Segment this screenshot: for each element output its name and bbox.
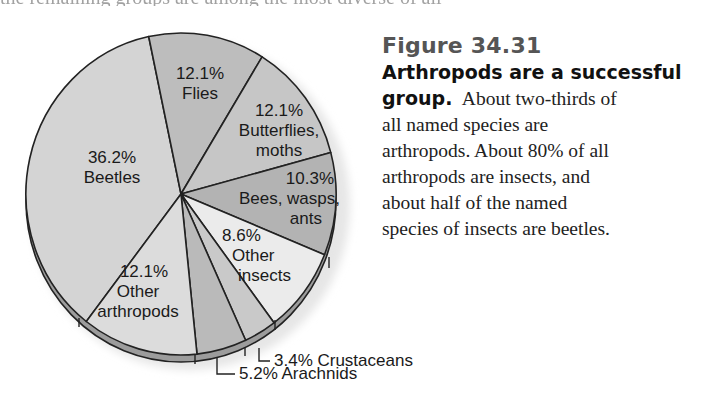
figure-body-line: arthropods are insects, and bbox=[382, 164, 721, 190]
other-arthropods-name-1: Other bbox=[88, 282, 188, 302]
label-other-arthropods: 12.1% Other arthropods bbox=[88, 262, 188, 322]
bees-pct: 10.3% bbox=[220, 169, 340, 189]
figure-title-line-1: Arthropods are a successful bbox=[382, 59, 721, 85]
other-arthropods-name-2: arthropods bbox=[88, 302, 188, 322]
label-other-insects: 8.6% Other insects bbox=[218, 226, 308, 286]
label-butterflies: 12.1% Butterflies, moths bbox=[229, 101, 329, 161]
other-insects-name-2: insects bbox=[218, 266, 308, 286]
figure-body-line: all named species are bbox=[382, 112, 721, 138]
beetles-name: Beetles bbox=[67, 168, 157, 188]
butterflies-name-2: moths bbox=[229, 141, 329, 161]
figure-caption: Figure 34.31 Arthropods are a successful… bbox=[382, 32, 721, 242]
label-bees: 10.3% Bees, wasps, ants bbox=[220, 169, 340, 229]
figure-title-line-2: group. About two-thirds of bbox=[382, 85, 721, 112]
butterflies-name-1: Butterflies, bbox=[229, 121, 329, 141]
figure-body-line: arthropods. About 80% of all bbox=[382, 138, 721, 164]
flies-name: Flies bbox=[164, 84, 236, 104]
butterflies-pct: 12.1% bbox=[229, 101, 329, 121]
label-beetles: 36.2% Beetles bbox=[67, 148, 157, 188]
beetles-pct: 36.2% bbox=[67, 148, 157, 168]
other-insects-name-1: Other bbox=[218, 246, 308, 266]
callout-arachnids: 5.2% Arachnids bbox=[239, 365, 357, 383]
figure-body-start: About two-thirds of bbox=[462, 88, 617, 109]
figure-body-line: about half of the named bbox=[382, 190, 721, 216]
figure-title-end: group. bbox=[382, 87, 452, 109]
other-insects-pct: 8.6% bbox=[218, 226, 308, 246]
figure-number: Figure 34.31 bbox=[382, 32, 721, 59]
flies-pct: 12.1% bbox=[164, 64, 236, 84]
label-flies: 12.1% Flies bbox=[164, 64, 236, 104]
bees-name-1: Bees, wasps, bbox=[220, 189, 340, 209]
other-arthropods-pct: 12.1% bbox=[88, 262, 188, 282]
figure-body-line: species of insects are beetles. bbox=[382, 216, 721, 242]
